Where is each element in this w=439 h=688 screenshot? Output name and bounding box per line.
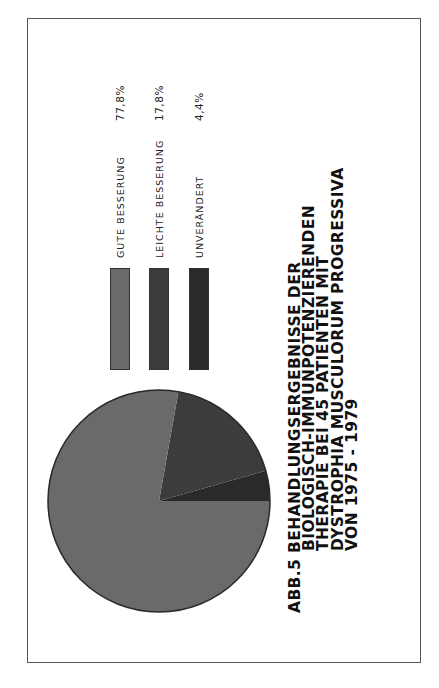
- title-line-5: VON 1975 - 1979: [345, 167, 359, 613]
- legend-swatch-leichte-besserung: [149, 268, 169, 370]
- chart-title: ABB.5 BEHANDLUNGSERGEBNISSE DER BIOLOGIS…: [288, 167, 359, 613]
- legend-label-unveraendert: UNVERÄNDERT: [194, 176, 206, 258]
- legend-label-gute-besserung: GUTE BESSERUNG: [115, 156, 127, 258]
- pie-chart: [0, 0, 439, 688]
- value-label-unveraendert: 4,4%: [193, 92, 205, 121]
- value-label-gute-besserung: 77,8%: [114, 85, 126, 121]
- legend-swatch-gute-besserung: [110, 268, 130, 370]
- value-label-leichte-besserung: 17,8%: [153, 85, 165, 121]
- legend-label-leichte-besserung: LEICHTE BESSERUNG: [154, 140, 166, 258]
- legend-swatch-unveraendert: [189, 268, 209, 370]
